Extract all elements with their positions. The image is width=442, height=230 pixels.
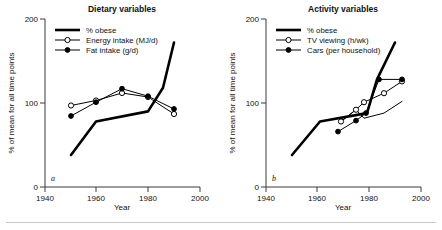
data-point-energy-1950 [68,103,73,108]
legend-label-tv-viewing: TV viewing (h/wk) [307,36,369,45]
series-group-dietary [68,43,176,156]
panel-title-activity: Activity variables [308,4,378,14]
x-tick-label-2000-activity: 2000 [412,194,430,203]
data-point-cars-1968 [336,129,341,134]
x-tick-label-1980-dietary: 1980 [139,194,157,203]
y-axis-title-activity: % of mean for all time points [228,53,237,154]
data-point-fat-1970 [120,86,125,91]
legend-label-obese-dietary: % obese [86,26,116,35]
legend-label-obese-activity: % obese [307,26,337,35]
y-axis-title-dietary: % of mean for all time points [7,53,16,154]
legend-activity: % obese TV viewing (h/wk) Cars (per hous… [276,26,381,55]
legend-dietary: % obese Energy intake (MJ/d) Fat intake … [55,26,158,55]
x-tick-label-1960-activity: 1960 [308,194,326,203]
legend-marker-fat-intake [65,48,70,53]
data-point-fat-1980 [146,94,151,99]
legend-label-fat-intake: Fat intake (g/d) [86,46,139,55]
y-tick-label-200-activity: 200 [246,15,260,24]
panel-title-dietary: Dietary variables [88,4,156,14]
series-line-obese-dietary [71,43,174,156]
footer-divider [6,222,436,223]
chart-svg-activity: Activity variables 200 100 0 1940 1960 1… [221,0,442,210]
data-point-tv-1978 [361,100,366,105]
data-point-tv-1969 [338,119,343,124]
data-point-tv-1984 [381,91,386,96]
y-tick-label-0-dietary: 0 [34,183,39,192]
data-point-fat-1990 [172,107,177,112]
panel-dietary-variables: Dietary variables 200 100 0 1940 1960 [0,0,221,210]
legend-marker-tv-viewing [286,37,291,42]
series-line-obese-activity [292,43,395,156]
panel-activity-variables: Activity variables 200 100 0 1940 1960 1… [221,0,442,210]
data-point-tv-1975 [353,107,358,112]
y-tick-label-100-activity: 100 [246,99,260,108]
data-point-cars-1984 [377,77,382,82]
data-point-cars-1991 [400,77,405,82]
data-point-cars-1979 [364,111,369,116]
data-point-energy-1990 [171,111,176,116]
data-point-fat-1960 [94,100,99,105]
series-group-activity [292,43,405,156]
data-point-cars-1975 [354,118,359,123]
x-tick-label-1960-dietary: 1960 [87,194,105,203]
x-axis-title-activity: Year [335,203,352,210]
x-tick-label-1980-activity: 1980 [360,194,378,203]
x-tick-label-1940-activity: 1940 [257,194,275,203]
series-line-tv-viewing [341,101,402,121]
chart-svg-dietary: Dietary variables 200 100 0 1940 1960 [0,0,221,210]
y-tick-label-200-dietary: 200 [25,15,39,24]
panel-letter-a: a [51,174,55,183]
legend-marker-energy-intake [65,37,70,42]
y-tick-label-100-dietary: 100 [25,99,39,108]
data-point-fat-1950 [69,114,74,119]
y-tick-label-0-activity: 0 [255,183,260,192]
legend-marker-cars [286,48,291,53]
x-tick-label-2000-dietary: 2000 [191,194,209,203]
x-axis-title-dietary: Year [114,203,131,210]
figure-container: Dietary variables 200 100 0 1940 1960 [0,0,442,230]
legend-label-energy-intake: Energy intake (MJ/d) [86,36,158,45]
x-tick-label-1940-dietary: 1940 [36,194,54,203]
legend-label-cars: Cars (per household) [307,46,381,55]
panel-letter-b: b [272,174,276,183]
